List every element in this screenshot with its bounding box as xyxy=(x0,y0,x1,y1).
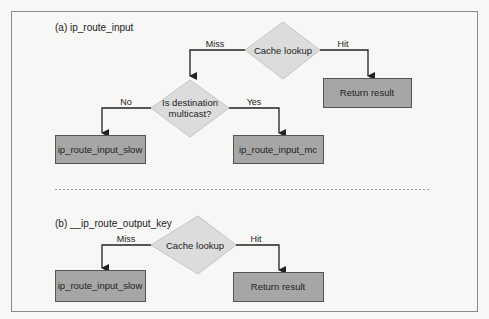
edge-no xyxy=(102,108,151,133)
edge-hit-a xyxy=(320,50,368,76)
return-result-label-a: Return result xyxy=(340,87,395,98)
edge-miss-b xyxy=(102,245,151,268)
multicast-label-line2: multicast? xyxy=(169,108,212,119)
edge-hit-b xyxy=(236,245,279,270)
panel-a: (a) ip_route_input Cache lookup Miss Hit… xyxy=(55,22,412,164)
edge-hit-label-a: Hit xyxy=(338,39,349,49)
edge-miss-label-a: Miss xyxy=(206,39,225,49)
panel-b: (b) __ip_route_output_key Cache lookup M… xyxy=(55,216,324,302)
flowchart-canvas: (a) ip_route_input Cache lookup Miss Hit… xyxy=(0,0,489,319)
edge-miss-label-b: Miss xyxy=(117,234,136,244)
return-result-label-b: Return result xyxy=(251,281,306,292)
ip-route-input-slow-label-a: ip_route_input_slow xyxy=(58,144,143,155)
edge-yes-label: Yes xyxy=(247,97,262,107)
cache-lookup-label-a: Cache lookup xyxy=(254,45,312,56)
edge-yes xyxy=(229,108,279,133)
edge-no-label: No xyxy=(120,97,132,107)
edge-miss-a xyxy=(190,50,245,76)
ip-route-input-mc-label: ip_route_input_mc xyxy=(239,144,317,155)
multicast-label-line1: Is destination xyxy=(162,97,218,108)
panel-b-title: (b) __ip_route_output_key xyxy=(55,218,172,229)
panel-a-title: (a) ip_route_input xyxy=(55,22,134,33)
cache-lookup-label-b: Cache lookup xyxy=(166,240,224,251)
ip-route-input-slow-label-b: ip_route_input_slow xyxy=(58,280,143,291)
edge-hit-label-b: Hit xyxy=(251,234,262,244)
